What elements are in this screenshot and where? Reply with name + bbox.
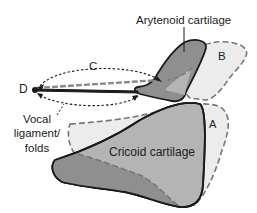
cricoid-label: Cricoid cartilage [109, 146, 195, 158]
label-a: A [209, 119, 216, 130]
arc-c-lower [40, 95, 138, 106]
larynx-diagram: Arytenoid cartilage B C D A Cricoid cart… [0, 0, 257, 213]
vocal-ligament-label: Vocal ligament/ folds [10, 112, 64, 155]
vocal-label-line2: ligament/ [10, 126, 64, 140]
label-d: D [19, 83, 28, 95]
arytenoid-label: Arytenoid cartilage [136, 15, 231, 27]
point-d [32, 87, 38, 93]
label-c: C [89, 61, 97, 73]
vocal-ligament-solid [35, 89, 138, 93]
diagram-graphics [0, 0, 257, 213]
vocal-label-line3: folds [10, 141, 64, 155]
vocal-label-line1: Vocal [10, 112, 64, 126]
arrowhead-lower-right [132, 95, 138, 101]
label-b: B [218, 51, 226, 63]
arrowhead-lower-left [37, 93, 43, 99]
